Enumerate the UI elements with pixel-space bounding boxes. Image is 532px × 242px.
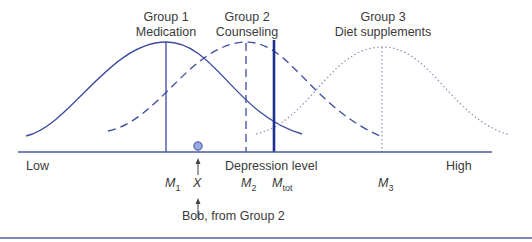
group2-treatment: Counseling (216, 25, 279, 40)
bob-x-label: X (193, 176, 201, 190)
group3-heading: Group 3 Diet supplements (335, 10, 432, 40)
group1-treatment: Medication (136, 25, 196, 40)
total-mean-label: Mtot (272, 176, 292, 193)
bob-caption: Bob, from Group 2 (182, 209, 285, 223)
group1-heading: Group 1 Medication (136, 10, 196, 40)
group3-name: Group 3 (335, 10, 432, 25)
axis-title: Depression level (225, 159, 317, 173)
axis-high-label: High (446, 159, 472, 173)
group1-curve (26, 42, 302, 136)
mean1-label: M1 (165, 176, 180, 193)
mean3-label: M3 (378, 176, 393, 193)
mean2-label: M2 (241, 176, 256, 193)
arrow-up-to-x-head (196, 198, 201, 204)
arrow-up-to-dot-head (196, 158, 201, 164)
group1-name: Group 1 (136, 10, 196, 25)
axis-low-label: Low (26, 159, 49, 173)
group3-curve (256, 47, 510, 135)
group2-name: Group 2 (216, 10, 279, 25)
group2-heading: Group 2 Counseling (216, 10, 279, 40)
bob-score-dot (194, 142, 202, 150)
group2-curve (108, 42, 380, 136)
group3-treatment: Diet supplements (335, 25, 432, 40)
